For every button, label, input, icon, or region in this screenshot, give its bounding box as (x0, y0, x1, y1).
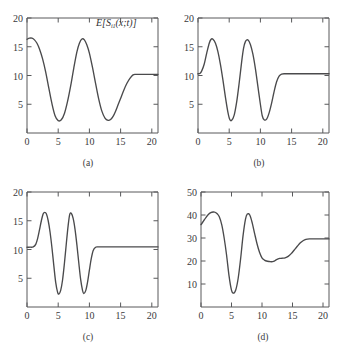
panel-d-x-ticks (201, 192, 323, 307)
panel-d-ytick-40: 40 (187, 210, 197, 221)
panel-b-xtick-0: 0 (196, 136, 201, 147)
panel-c-xtick-15: 15 (116, 310, 126, 321)
panel-d-ytick-30: 30 (187, 233, 197, 244)
panel-c-plot: 20 15 10 5 0 5 10 15 20 (c) (0, 174, 170, 349)
panel-c-y-ticks (27, 192, 158, 278)
panel-a-xtick-10: 10 (84, 136, 94, 147)
panel-a: 20 15 10 5 0 5 10 15 20 (a) E[Si1(x;t)] (0, 0, 170, 174)
panel-a-axes: 20 15 10 5 0 5 10 15 20 (13, 13, 158, 147)
panel-a-y-ticks (27, 18, 158, 104)
panel-d-plot: 50 40 30 20 10 0 5 10 15 20 (d) (170, 174, 341, 349)
panel-c-xtick-10: 10 (84, 310, 94, 321)
panel-d-caption: (d) (257, 332, 268, 343)
panel-a-ytick-5: 5 (18, 99, 23, 110)
panel-b-xtick-20: 20 (318, 136, 328, 147)
panel-d-curve (201, 212, 329, 293)
panel-b-plot: 20 15 10 5 0 5 10 15 20 (b) (170, 0, 341, 174)
panel-a-caption: (a) (83, 158, 94, 169)
panel-b-curve (198, 39, 329, 121)
panel-a-xtick-20: 20 (147, 136, 157, 147)
panel-a-xtick-0: 0 (25, 136, 30, 147)
panel-c-xtick-5: 5 (56, 310, 61, 321)
panel-c-xtick-0: 0 (25, 310, 30, 321)
panel-b: 20 15 10 5 0 5 10 15 20 (b) E[Si2(x;t)] (170, 0, 341, 174)
panel-d-axes: 50 40 30 20 10 0 5 10 15 20 (187, 187, 329, 321)
panel-b-caption: (b) (253, 158, 264, 169)
panel-a-series-label: E[Si1(x;t)] (96, 17, 137, 29)
panel-b-ytick-15: 15 (184, 42, 194, 53)
panel-d: 50 40 30 20 10 0 5 10 15 20 (d) E[S(S)6|… (170, 174, 341, 349)
panel-a-ytick-20: 20 (13, 13, 23, 24)
panel-d-xtick-15: 15 (288, 310, 298, 321)
panel-c-x-ticks (27, 192, 152, 307)
panel-d-ytick-20: 20 (187, 256, 197, 267)
panel-b-ytick-5: 5 (189, 99, 194, 110)
panel-a-ytick-15: 15 (13, 42, 23, 53)
panel-d-xtick-10: 10 (257, 310, 267, 321)
panel-a-xtick-15: 15 (116, 136, 126, 147)
panel-b-x-ticks (198, 18, 323, 133)
panel-c-axes: 20 15 10 5 0 5 10 15 20 (13, 187, 158, 321)
panel-d-ytick-10: 10 (187, 279, 197, 290)
panel-a-curve (27, 38, 158, 121)
panel-a-xtick-5: 5 (56, 136, 61, 147)
figure-panel-grid: 20 15 10 5 0 5 10 15 20 (a) E[Si1(x;t)] (0, 0, 341, 349)
panel-c-ytick-20: 20 (13, 187, 23, 198)
panel-b-xtick-10: 10 (255, 136, 265, 147)
panel-a-plot: 20 15 10 5 0 5 10 15 20 (a) (0, 0, 170, 174)
panel-c: 20 15 10 5 0 5 10 15 20 (c) E[Si3(x;t)] (0, 174, 170, 349)
panel-b-y-ticks (198, 18, 329, 104)
panel-b-ytick-20: 20 (184, 13, 194, 24)
panel-b-ytick-10: 10 (184, 71, 194, 82)
panel-d-ytick-50: 50 (187, 187, 197, 198)
panel-c-ytick-10: 10 (13, 245, 23, 256)
panel-c-xtick-20: 20 (147, 310, 157, 321)
panel-b-xtick-15: 15 (287, 136, 297, 147)
panel-c-curve (27, 212, 158, 294)
panel-b-xtick-5: 5 (227, 136, 232, 147)
panel-a-ytick-10: 10 (13, 71, 23, 82)
panel-d-xtick-20: 20 (318, 310, 328, 321)
panel-d-xtick-0: 0 (199, 310, 204, 321)
panel-c-ytick-15: 15 (13, 216, 23, 227)
panel-c-ytick-5: 5 (18, 273, 23, 284)
panel-d-y-ticks (201, 192, 329, 284)
panel-d-xtick-5: 5 (229, 310, 234, 321)
panel-c-caption: (c) (83, 332, 94, 343)
